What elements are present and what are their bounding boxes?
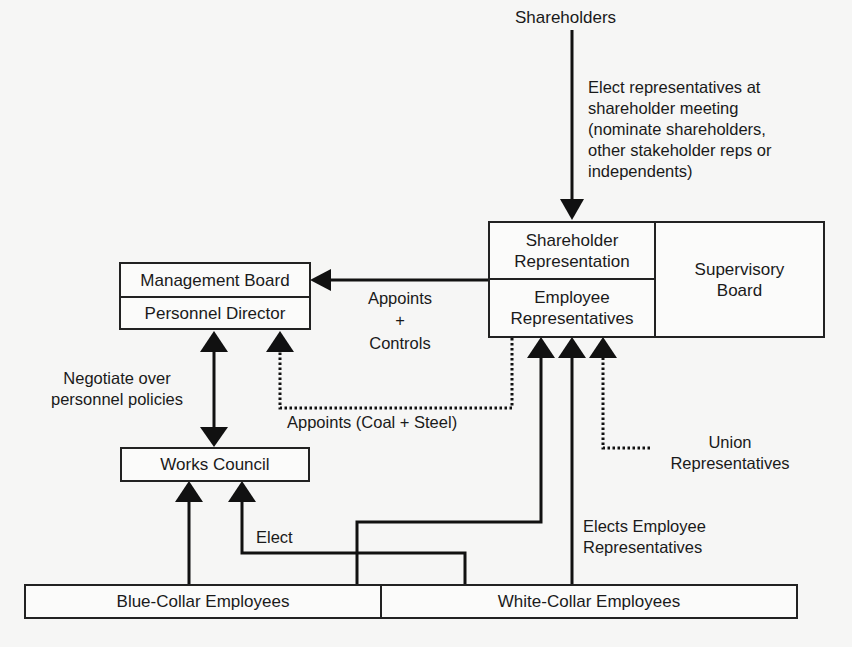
management-board-label: Management Board	[140, 270, 289, 291]
shareholder-representation-label: Shareholder Representation	[490, 230, 654, 272]
blue-collar-label: Blue-Collar Employees	[117, 591, 290, 612]
personnel-director-label: Personnel Director	[145, 303, 286, 324]
shareholders-label: Shareholders	[515, 7, 616, 28]
management-board-box: Management Board	[119, 262, 311, 298]
blue-collar-employees-box: Blue-Collar Employees	[24, 584, 382, 619]
negotiate-label: Negotiate over personnel policies	[32, 368, 202, 410]
blue-collar-employee-reps-arrow	[357, 358, 541, 584]
employee-representatives-label: Employee Representatives	[490, 287, 654, 329]
white-collar-employees-box: White-Collar Employees	[380, 584, 798, 619]
appoints-label: Appoints	[355, 288, 445, 309]
personnel-director-box: Personnel Director	[119, 296, 311, 330]
employee-representatives-box: Employee Representatives	[488, 278, 656, 338]
white-collar-label: White-Collar Employees	[498, 591, 680, 612]
supervisory-board-label: Supervisory Board	[685, 259, 795, 301]
supervisory-board-box: Supervisory Board	[654, 221, 825, 338]
appoints-coal-steel-label: Appoints (Coal + Steel)	[287, 412, 457, 433]
elect-shareholder-reps-label: Elect representatives at shareholder mee…	[588, 77, 808, 182]
elect-label: Elect	[256, 527, 293, 548]
works-council-box: Works Council	[120, 447, 310, 482]
works-council-label: Works Council	[160, 454, 269, 475]
plus-label: +	[355, 310, 445, 331]
union-dotted-arrow	[603, 358, 650, 448]
shareholder-representation-box: Shareholder Representation	[488, 221, 656, 280]
controls-label: Controls	[355, 333, 445, 354]
union-representatives-label: Union Representatives	[650, 432, 810, 474]
elects-employee-reps-label: Elects Employee Representatives	[583, 516, 743, 558]
